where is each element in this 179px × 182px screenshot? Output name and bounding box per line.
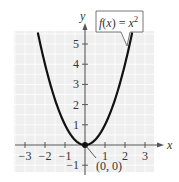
vertex-label: (0, 0): [96, 159, 122, 173]
x-tick-label: −3: [19, 149, 32, 163]
y-axis-arrow-icon: [83, 23, 88, 30]
x-axis-arrow-icon: [157, 143, 164, 148]
function-label: f(x) = x2: [99, 14, 138, 30]
x-tick-label: 3: [142, 149, 148, 163]
x-tick-label: 2: [122, 149, 128, 163]
y-tick-label: 5: [73, 37, 79, 51]
x-tick-label: −2: [39, 149, 52, 163]
y-tick-label: −1: [66, 158, 79, 172]
y-tick-label: 3: [73, 77, 79, 91]
parabola-chart: xy −3−2−1123−112345 (0, 0)f(x) = x2: [0, 0, 179, 182]
y-axis-label: y: [79, 9, 86, 23]
y-tick-label: 4: [73, 57, 79, 71]
y-tick-label: 2: [73, 98, 79, 112]
x-axis-label: x: [166, 138, 173, 152]
y-tick-label: 1: [73, 118, 79, 132]
